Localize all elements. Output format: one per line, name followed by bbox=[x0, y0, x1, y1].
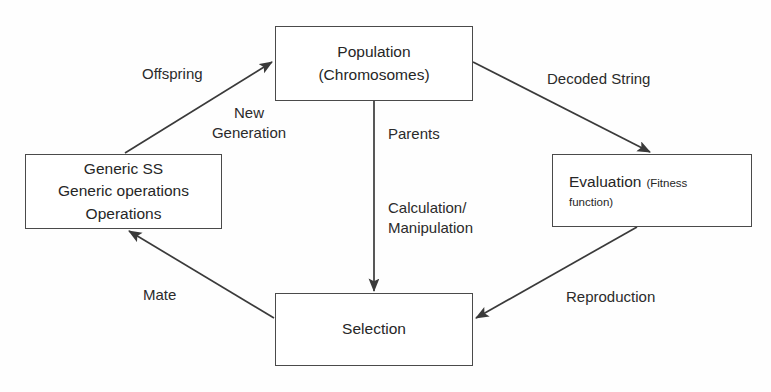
node-evaluation-title: Evaluation bbox=[569, 173, 641, 190]
node-evaluation[interactable]: Evaluation(Fitness function) bbox=[552, 154, 752, 227]
edge-label-new-generation: New Generation bbox=[199, 103, 299, 144]
node-selection-label: Selection bbox=[342, 318, 406, 340]
node-operations[interactable]: Generic SS Generic operations Operations bbox=[25, 154, 222, 229]
edge-label-parents: Parents bbox=[388, 124, 440, 144]
edge-label-offspring: Offspring bbox=[142, 64, 203, 84]
diagram-canvas: Population (Chromosomes) Evaluation(Fitn… bbox=[0, 0, 771, 392]
edge-label-reproduction: Reproduction bbox=[566, 287, 655, 307]
node-operations-line3: Operations bbox=[58, 203, 189, 225]
node-selection[interactable]: Selection bbox=[275, 293, 473, 366]
node-population[interactable]: Population (Chromosomes) bbox=[275, 26, 473, 101]
edge-label-calculation-manipulation: Calculation/ Manipulation bbox=[388, 198, 518, 239]
node-population-line2: (Chromosomes) bbox=[318, 64, 429, 86]
node-evaluation-note-1: (Fitness bbox=[646, 177, 687, 189]
node-population-line1: Population bbox=[318, 41, 429, 63]
node-evaluation-note-2: function) bbox=[569, 194, 687, 211]
node-operations-line1: Generic SS bbox=[58, 158, 189, 180]
edge-label-mate: Mate bbox=[143, 285, 176, 305]
edge-label-decoded-string: Decoded String bbox=[547, 69, 650, 89]
node-operations-line2: Generic operations bbox=[58, 180, 189, 202]
